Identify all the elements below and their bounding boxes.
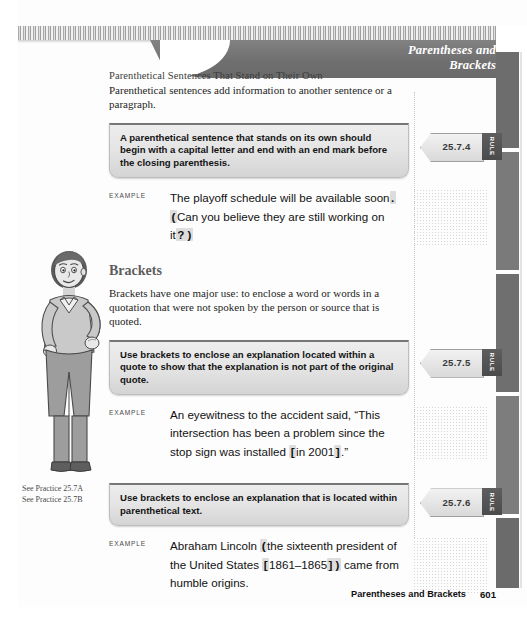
example-label: EXAMPLE xyxy=(109,540,146,547)
brackets-intro: Brackets have one major use: to enclose … xyxy=(109,286,409,328)
rule-badge-label: RULE xyxy=(486,353,498,372)
rule-badge: RULE xyxy=(482,488,502,515)
content-column: Parenthetical Sentences That Stand on Th… xyxy=(109,70,409,593)
rule-tab-25-7-4[interactable]: 25.7.4 RULE xyxy=(420,133,506,163)
highlighted-punctuation: ? xyxy=(176,228,186,241)
decorative-comb-strip xyxy=(18,26,527,40)
rule-badge: RULE xyxy=(482,349,502,376)
section-subheading: Parenthetical Sentences That Stand on Th… xyxy=(109,70,409,81)
example-text-run: .” xyxy=(341,445,348,458)
rail-edge xyxy=(520,52,522,588)
highlighted-punctuation: ] xyxy=(327,558,334,571)
highlighted-punctuation: ) xyxy=(334,558,341,571)
bottom-margin xyxy=(0,607,527,629)
highlighted-punctuation: . xyxy=(390,191,396,204)
left-margin xyxy=(0,0,18,629)
rule-number: 25.7.5 xyxy=(434,357,471,369)
rule-number-arrow-icon: 25.7.5 xyxy=(420,349,484,378)
rule-badge: RULE xyxy=(482,133,502,160)
rule-tab-25-7-5[interactable]: 25.7.5 RULE xyxy=(420,349,506,379)
rule-number: 25.7.4 xyxy=(434,141,471,153)
example-label: EXAMPLE xyxy=(109,409,146,416)
example-text-run: An eyewitness to the accident said, “Thi… xyxy=(170,408,385,458)
student-illustration xyxy=(28,244,110,504)
example-dot-pattern xyxy=(413,406,487,462)
rule-number-arrow-icon: 25.7.4 xyxy=(420,133,484,162)
example-text: The playoff schedule will be available s… xyxy=(170,189,409,245)
rule-box-25-7-5: Use brackets to enclose an explanation l… xyxy=(109,340,409,395)
rule-box-25-7-4: A parenthetical sentence that stands on … xyxy=(109,123,409,178)
highlighted-punctuation: ] xyxy=(334,445,341,458)
rule-badge-label: RULE xyxy=(486,492,498,511)
highlighted-punctuation: ( xyxy=(170,210,177,223)
footer-title: Parentheses and Brackets xyxy=(351,589,466,599)
rule-text-bold: brackets xyxy=(140,349,179,360)
example-label: EXAMPLE xyxy=(109,192,146,199)
rule-text-lead: Use xyxy=(120,492,140,503)
example-block-2: EXAMPLE An eyewitness to the accident sa… xyxy=(109,406,409,462)
rail-segment xyxy=(496,152,519,270)
example-text-run: The playoff schedule will be available s… xyxy=(170,191,390,204)
brackets-heading: Brackets xyxy=(109,263,409,279)
example-text: An eyewitness to the accident said, “Thi… xyxy=(170,406,409,462)
page-title-line1: Parentheses and xyxy=(296,43,496,58)
example-text-run: Can you believe they are still working o… xyxy=(170,210,384,242)
rule-text-bold: brackets xyxy=(140,492,179,503)
example-text-run: 1861–1865 xyxy=(269,558,327,571)
example-text-run: Abraham Lincoln xyxy=(170,539,260,552)
rule-number-arrow-icon: 25.7.6 xyxy=(420,488,484,517)
rule-text-lead: A xyxy=(120,132,129,143)
example-dot-pattern xyxy=(413,189,487,245)
section-intro: Parenthetical sentences add information … xyxy=(109,83,409,111)
rule-tab-25-7-6[interactable]: 25.7.6 RULE xyxy=(420,488,506,518)
rule-badge-label: RULE xyxy=(486,137,498,156)
example-text-run: in 2001 xyxy=(296,445,334,458)
rule-number: 25.7.6 xyxy=(434,497,471,509)
rail-segment xyxy=(496,518,519,588)
page-title: Parentheses and Brackets xyxy=(296,43,496,72)
rule-text-bold: parenthetical sentence xyxy=(129,132,233,143)
rule-text-lead: Use xyxy=(120,349,140,360)
textbook-page: Parentheses and Brackets xyxy=(0,0,527,629)
page-footer: Parentheses and Brackets 601 xyxy=(18,585,496,603)
see-practice-line-1: See Practice 25.7A xyxy=(22,484,83,495)
see-practice-notes: See Practice 25.7A See Practice 25.7B xyxy=(22,484,83,505)
column-divider xyxy=(414,92,416,538)
see-practice-line-2: See Practice 25.7B xyxy=(22,495,83,506)
rule-box-25-7-6: Use brackets to enclose an explanation t… xyxy=(109,483,409,526)
example-block-1: EXAMPLE The playoff schedule will be ava… xyxy=(109,189,409,245)
highlighted-punctuation: ) xyxy=(186,228,193,241)
footer-page-number: 601 xyxy=(480,589,496,600)
